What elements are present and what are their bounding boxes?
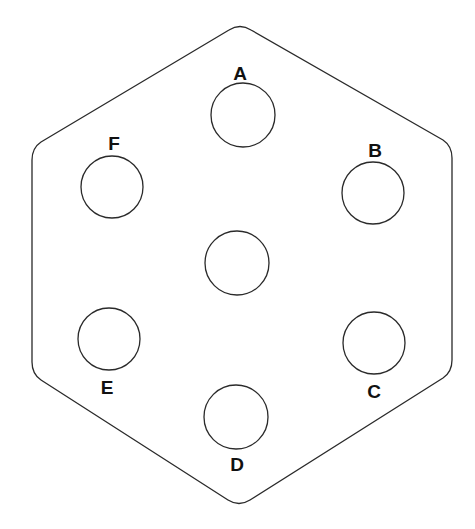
hole-e [78,308,140,370]
hole-a [211,83,275,147]
hole-label-a: A [233,63,247,84]
hole-b [342,162,404,224]
hole-label-c: C [367,381,381,402]
hole-c [343,312,405,374]
hole-f [81,156,143,218]
hole-label-e: E [101,377,114,398]
hole-center [205,231,269,295]
hole-label-d: D [230,454,244,475]
hole-d [204,385,268,449]
hexagon-hole-diagram: ABCDEF [0,0,475,529]
hole-label-b: B [368,140,382,161]
hole-label-f: F [108,133,120,154]
